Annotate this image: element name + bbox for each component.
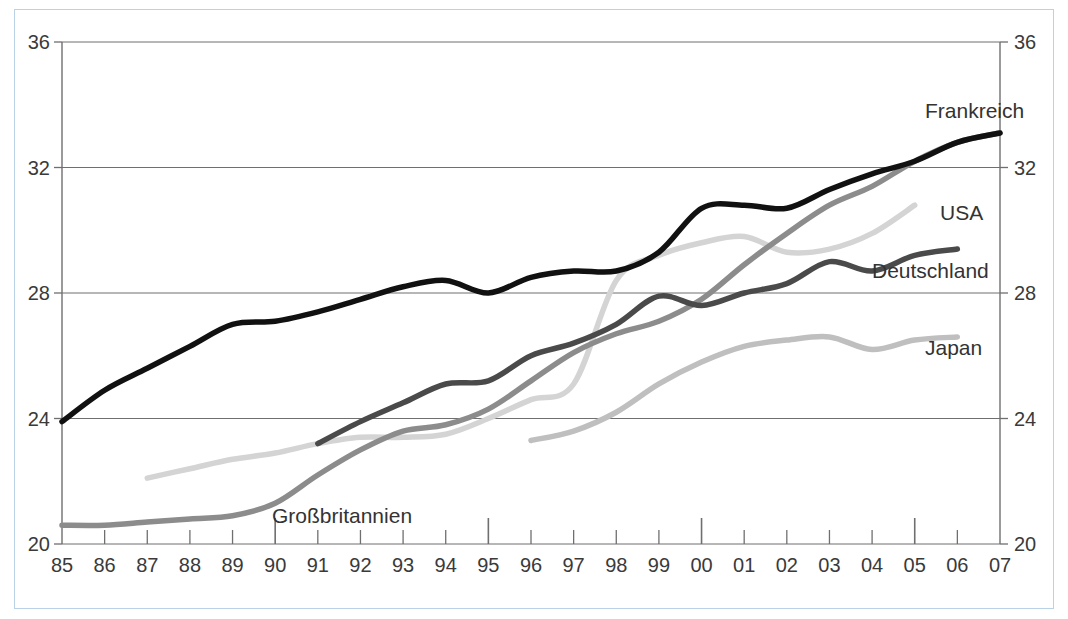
- y-tick-label-right-24: 24: [1014, 408, 1036, 430]
- y-tick-label-left-36: 36: [28, 31, 50, 53]
- y-tick-label-left-32: 32: [28, 157, 50, 179]
- series-label-usa: USA: [940, 201, 983, 224]
- series-line-japan: [531, 336, 957, 440]
- x-tick-label-04: 04: [861, 554, 883, 576]
- y-tick-label-left-28: 28: [28, 282, 50, 304]
- series-label-japan: Japan: [925, 336, 982, 359]
- x-tick-label-88: 88: [179, 554, 201, 576]
- x-tick-label-89: 89: [221, 554, 243, 576]
- x-tick-label-87: 87: [136, 554, 158, 576]
- y-tick-label-right-32: 32: [1014, 157, 1036, 179]
- x-tick-label-02: 02: [776, 554, 798, 576]
- x-tick-label-95: 95: [477, 554, 499, 576]
- x-tick-label-86: 86: [94, 554, 116, 576]
- x-tick-label-90: 90: [264, 554, 286, 576]
- data-series-group: [62, 133, 1000, 525]
- y-axis-labels-left: 2024283236: [28, 31, 50, 555]
- x-tick-label-03: 03: [818, 554, 840, 576]
- y-tick-label-left-20: 20: [28, 533, 50, 555]
- series-line-usa: [147, 205, 914, 478]
- chart-canvas: 2024283236 2024283236 858687888990919293…: [0, 0, 1068, 619]
- x-tick-label-01: 01: [733, 554, 755, 576]
- x-tick-label-05: 05: [904, 554, 926, 576]
- x-tick-label-94: 94: [435, 554, 457, 576]
- series-label-deutschland: Deutschland: [872, 259, 989, 282]
- x-tick-label-93: 93: [392, 554, 414, 576]
- x-tick-label-99: 99: [648, 554, 670, 576]
- x-tick-label-91: 91: [307, 554, 329, 576]
- y-tick-label-right-28: 28: [1014, 282, 1036, 304]
- x-tick-label-96: 96: [520, 554, 542, 576]
- x-tickmarks-group: [105, 518, 958, 544]
- x-tick-label-92: 92: [349, 554, 371, 576]
- y-tick-label-right-20: 20: [1014, 533, 1036, 555]
- x-tick-label-00: 00: [690, 554, 712, 576]
- x-tick-label-98: 98: [605, 554, 627, 576]
- x-tick-label-06: 06: [946, 554, 968, 576]
- x-tick-label-85: 85: [51, 554, 73, 576]
- y-tick-label-left-24: 24: [28, 408, 50, 430]
- series-label-frankreich: Frankreich: [925, 99, 1024, 122]
- series-label-gro-britannien: Großbritannien: [272, 504, 412, 527]
- line-chart: 2024283236 2024283236 858687888990919293…: [0, 0, 1068, 619]
- x-tick-label-97: 97: [563, 554, 585, 576]
- y-tick-label-right-36: 36: [1014, 31, 1036, 53]
- x-axis-labels: 8586878889909192939495969798990001020304…: [51, 554, 1011, 576]
- x-tick-label-07: 07: [989, 554, 1011, 576]
